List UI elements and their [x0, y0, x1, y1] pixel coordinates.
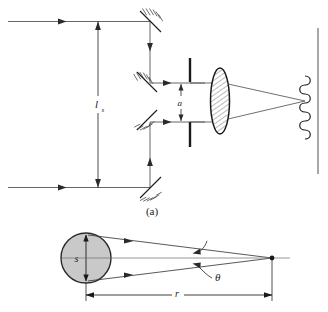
dimension-line-r: r	[86, 260, 273, 301]
incoming-ray-top	[8, 19, 150, 25]
caption-panel-a: (a)	[146, 205, 159, 218]
vertical-ray-upper	[147, 22, 153, 84]
mirror-top-45	[140, 9, 163, 33]
ray-arrowhead	[163, 119, 172, 125]
incoming-ray-bottom	[8, 185, 150, 191]
leader-arrowhead	[193, 249, 201, 255]
panel-a: l s a	[8, 9, 318, 219]
angle-leader-line	[193, 263, 213, 278]
mirror-mid-upper-45	[134, 72, 157, 92]
dimension-line-ls: l s	[91, 22, 106, 188]
converging-lens	[211, 68, 230, 134]
label-ls: l	[95, 98, 98, 110]
label-distance-r: r	[175, 288, 179, 299]
label-source-size-s: s	[75, 253, 79, 264]
ray-arrowhead	[58, 185, 67, 191]
label-ls-subscript: s	[101, 106, 104, 114]
ray-arrowhead	[58, 19, 67, 25]
label-aperture-a: a	[178, 98, 183, 108]
upper-ray	[88, 235, 272, 258]
label-angle-theta: θ	[215, 271, 221, 283]
figure-root: l s a	[0, 0, 328, 312]
mirror-bottom-45	[140, 177, 162, 201]
vertical-ray-lower	[147, 122, 153, 188]
ray-arrowhead	[163, 80, 172, 86]
ray-leader-line	[193, 241, 208, 255]
lower-ray	[88, 258, 272, 281]
interference-fringe-pattern	[300, 76, 311, 139]
ray-lens-to-screen-lower	[228, 101, 305, 119]
ray-arrowhead	[147, 43, 153, 52]
ray-arrowhead	[147, 158, 153, 167]
panel-b: s θ	[61, 233, 290, 301]
mirror-mid-lower-45	[134, 110, 157, 130]
ray-lens-to-screen-upper	[228, 84, 305, 101]
convergence-point	[270, 256, 275, 261]
dimension-line-a: a	[176, 84, 186, 121]
optics-figure-svg: l s a	[0, 0, 328, 312]
